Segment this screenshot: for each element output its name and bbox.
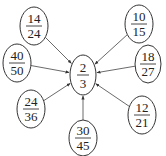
- fraction-node-14-24: 1424: [20, 7, 48, 45]
- denominator: 24: [28, 26, 42, 41]
- numerator: 30: [77, 123, 90, 138]
- denominator: 27: [142, 64, 156, 79]
- denominator: 50: [11, 63, 24, 78]
- arrow-f24_36-to-center: [44, 83, 71, 100]
- fraction-node-12-21: 1221: [128, 96, 156, 134]
- arrow-f10_15-to-center: [95, 35, 127, 65]
- arrow-f12_21-to-center: [96, 84, 130, 107]
- numerator: 18: [142, 49, 155, 64]
- fraction-node-24-36: 2436: [17, 90, 45, 128]
- denominator: 21: [136, 115, 149, 130]
- fraction-diagram: 1424101540501827243612213045 2 3: [0, 0, 166, 156]
- numerator: 14: [28, 11, 42, 26]
- fraction-node-40-50: 4050: [3, 44, 31, 82]
- numerator: 12: [136, 100, 149, 115]
- center-fraction-2-3: 2 3: [70, 55, 96, 95]
- arrow-f40_50-to-center: [31, 66, 69, 73]
- center-numerator: 2: [80, 60, 87, 75]
- numerator: 10: [133, 9, 146, 24]
- center-denominator: 3: [80, 76, 87, 91]
- arrow-f14_24-to-center: [45, 37, 71, 63]
- denominator: 45: [77, 138, 90, 153]
- denominator: 15: [133, 24, 146, 39]
- numerator: 24: [25, 94, 39, 109]
- fraction-node-18-27: 1827: [135, 45, 161, 83]
- fraction-node-30-45: 3045: [69, 120, 97, 156]
- denominator: 36: [25, 109, 39, 124]
- arrow-f18_27-to-center: [97, 66, 135, 72]
- numerator: 40: [11, 48, 24, 63]
- fraction-node-10-15: 1015: [125, 5, 153, 43]
